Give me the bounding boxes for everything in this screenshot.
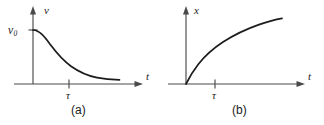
- panel-a-tau-label: τ: [66, 90, 70, 101]
- panel-a-caption: (a): [71, 104, 86, 116]
- panel-b-x-axis-arrow: [297, 81, 306, 87]
- panel-b: x t τ (b): [162, 0, 324, 125]
- panel-b-x-axis-label: t: [308, 71, 311, 82]
- panel-b-y-axis-label: x: [194, 5, 199, 16]
- panel-a-x-axis-label: t: [146, 71, 149, 82]
- panel-b-caption: (b): [232, 104, 247, 116]
- panel-b-growth-curve: [186, 18, 282, 84]
- panel-a-v0-subscript: 0: [13, 29, 17, 38]
- physics-figure: v t v0 τ (a) x t τ (b): [0, 0, 324, 125]
- panel-a: v t v0 τ (a): [0, 0, 162, 125]
- panel-b-y-axis-arrow: [183, 6, 189, 15]
- panel-a-y-axis-arrow: [30, 6, 36, 15]
- panel-a-decay-curve: [33, 30, 120, 80]
- panel-a-v0-label: v0: [8, 25, 17, 37]
- panel-b-tau-label: τ: [212, 90, 216, 101]
- panel-a-x-axis-arrow: [135, 81, 144, 87]
- panel-a-y-axis-label: v: [44, 5, 49, 16]
